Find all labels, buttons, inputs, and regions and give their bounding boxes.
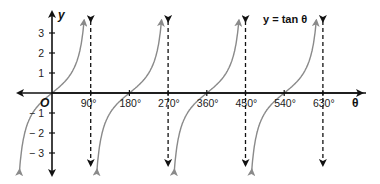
chart-title: y = tan θ bbox=[263, 13, 307, 25]
y-axis-label: y bbox=[57, 8, 66, 22]
y-tick-label: 3 bbox=[38, 27, 44, 39]
x-tick-label: 90° bbox=[81, 97, 97, 109]
y-tick-label: − 3 bbox=[29, 147, 44, 159]
x-tick-label: 360° bbox=[197, 97, 219, 109]
x-tick-label: 270° bbox=[158, 97, 180, 109]
x-tick-label: 540° bbox=[274, 97, 296, 109]
x-tick-label: 450° bbox=[236, 97, 258, 109]
y-tick-label: 1 bbox=[38, 67, 44, 79]
y-tick-label: 2 bbox=[38, 47, 44, 59]
x-tick-label: 630° bbox=[313, 97, 335, 109]
x-axis-label: θ bbox=[352, 96, 359, 110]
x-tick-label: 180° bbox=[119, 97, 141, 109]
y-tick-label: − 2 bbox=[29, 127, 44, 139]
chart-svg: 90°180°270°360°450°540°630°321− 1− 2− 3 … bbox=[0, 0, 380, 184]
tangent-graph: 90°180°270°360°450°540°630°321− 1− 2− 3 … bbox=[0, 0, 380, 184]
origin-label: O bbox=[40, 96, 50, 110]
